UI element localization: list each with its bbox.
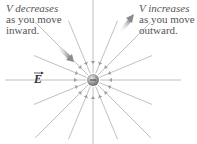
field-arrow-icon (91, 61, 95, 64)
field-arrow-icon (109, 78, 112, 82)
v-decreases-label: V decreases as you move inward. (6, 3, 62, 36)
inward-gradient-arrow (56, 44, 74, 62)
field-arrow-icon (74, 78, 77, 82)
field-line (96, 86, 118, 139)
negative-charge (87, 74, 99, 86)
outward-gradient-arrow (120, 14, 134, 32)
v-increases-label: V increases as you move outward. (139, 3, 195, 36)
field-symbol: E (34, 74, 42, 85)
field-arrow-icon (91, 96, 95, 99)
field-line (69, 21, 91, 74)
v-increases-line3: outward. (139, 25, 195, 36)
field-line (99, 56, 152, 78)
vector-arrow-icon (34, 71, 44, 75)
field-line (99, 83, 152, 105)
field-line (96, 21, 118, 74)
v-decreases-line3: inward. (6, 25, 62, 36)
electric-field-label: E (34, 74, 42, 85)
field-line (69, 86, 91, 139)
